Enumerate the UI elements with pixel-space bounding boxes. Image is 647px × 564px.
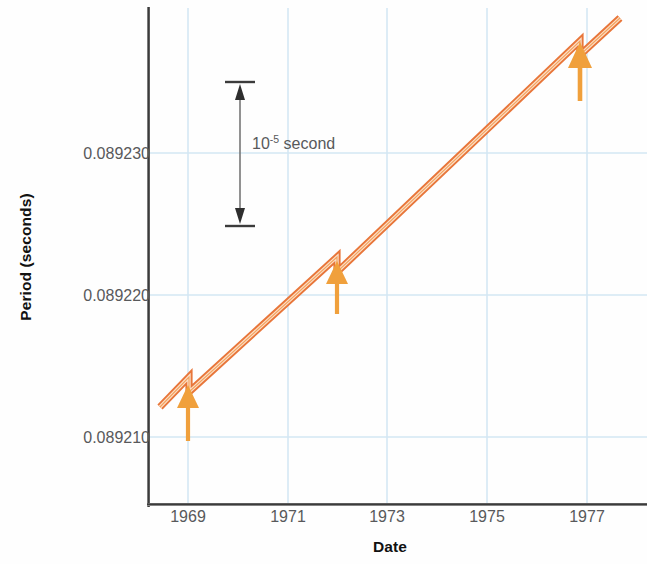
x-tick-label-1977: 1977 — [542, 508, 632, 526]
pulsar-period-chart: 10-5 second 0.089230 0.089220 0.089210 1… — [0, 0, 647, 564]
x-tick-label-1971: 1971 — [243, 508, 333, 526]
y-tick-label-1: 0.089220 — [20, 287, 150, 305]
glitch-marker-3-icon — [568, 42, 592, 101]
scale-mantissa: 10 — [252, 135, 270, 152]
scale-unit: second — [284, 135, 336, 152]
scale-bar-label: 10-5 second — [252, 133, 335, 153]
scale-bar-annotation — [215, 78, 265, 230]
x-tick-label-1973: 1973 — [342, 508, 432, 526]
x-tick-label-1975: 1975 — [442, 508, 532, 526]
glitch-marker-2-icon — [326, 261, 348, 314]
x-axis-spine — [147, 503, 647, 506]
x-axis-title: Date — [330, 538, 450, 556]
y-tick-label-0: 0.089230 — [20, 145, 150, 163]
glitch-marker-1-icon — [177, 385, 199, 441]
y-tick-label-2: 0.089210 — [20, 429, 150, 447]
y-axis-title: Period (seconds) — [17, 147, 35, 367]
x-tick-label-1969: 1969 — [143, 508, 233, 526]
scale-exponent: -5 — [270, 133, 279, 145]
